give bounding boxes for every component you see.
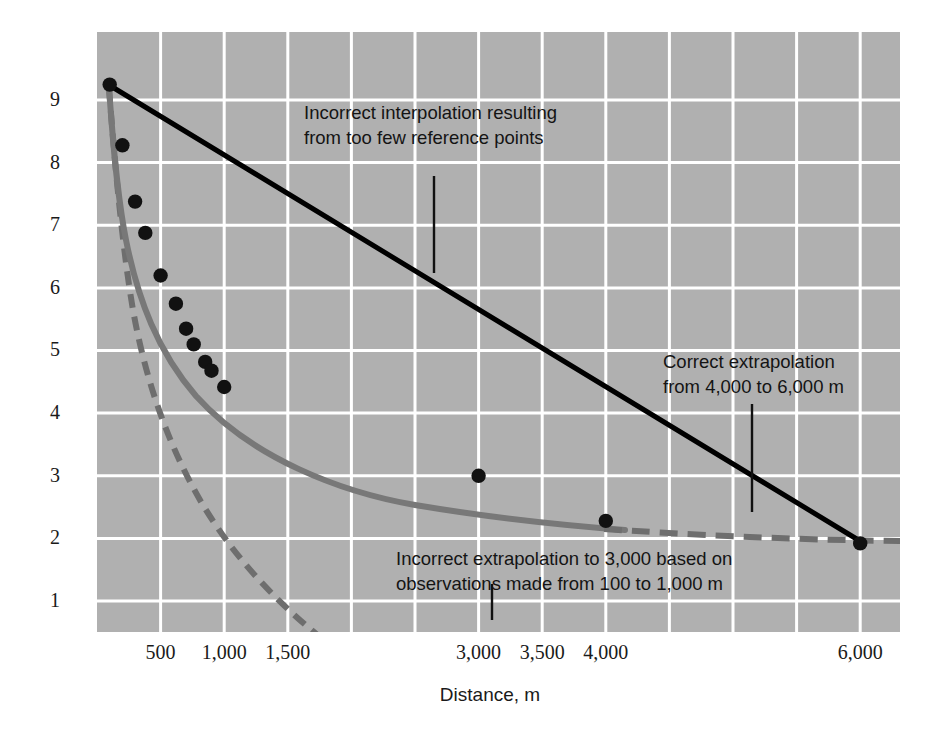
data-point	[599, 514, 613, 528]
data-point	[179, 322, 193, 336]
data-point	[471, 469, 485, 483]
x-tick-label: 6,000	[838, 641, 883, 664]
data-point	[153, 268, 167, 282]
x-tick-label: 3,000	[456, 641, 501, 664]
x-tick-label: 1,000	[202, 641, 247, 664]
data-point	[204, 364, 218, 378]
y-tick-label: 7	[20, 213, 60, 236]
y-tick-label: 6	[20, 276, 60, 299]
annotation-line: Incorrect extrapolation to 3,000 based o…	[396, 546, 732, 571]
y-tick-label: 1	[20, 589, 60, 612]
data-point	[187, 337, 201, 351]
annotation-incorrect-interpolation: Incorrect interpolation resulting from t…	[304, 100, 557, 150]
data-point	[128, 194, 142, 208]
annotation-line: observations made from 100 to 1,000 m	[396, 571, 732, 596]
chart-figure: 9 8 7 6 5 4 3 2 1 500 1,000 1,500 3,000 …	[0, 0, 935, 754]
y-tick-label: 8	[20, 151, 60, 174]
data-point	[115, 138, 129, 152]
y-tick-label: 2	[20, 526, 60, 549]
data-point	[853, 536, 867, 550]
annotation-line: from too few reference points	[304, 125, 557, 150]
x-tick-label: 3,500	[520, 641, 565, 664]
annotation-incorrect-extrapolation: Incorrect extrapolation to 3,000 based o…	[396, 546, 732, 596]
y-tick-label: 3	[20, 464, 60, 487]
annotation-correct-extrapolation: Correct extrapolation from 4,000 to 6,00…	[663, 349, 844, 399]
data-point	[103, 77, 117, 91]
data-point	[169, 297, 183, 311]
y-tick-label: 9	[20, 88, 60, 111]
x-tick-label: 500	[146, 641, 176, 664]
data-point	[217, 380, 231, 394]
y-tick-label: 5	[20, 338, 60, 361]
x-axis-title: Distance, m	[440, 684, 540, 706]
y-tick-label: 4	[20, 401, 60, 424]
data-point	[138, 226, 152, 240]
annotation-line: Correct extrapolation	[663, 349, 844, 374]
x-tick-label: 1,500	[265, 641, 310, 664]
annotation-line: from 4,000 to 6,000 m	[663, 374, 844, 399]
annotation-line: Incorrect interpolation resulting	[304, 100, 557, 125]
x-tick-label: 4,000	[583, 641, 628, 664]
